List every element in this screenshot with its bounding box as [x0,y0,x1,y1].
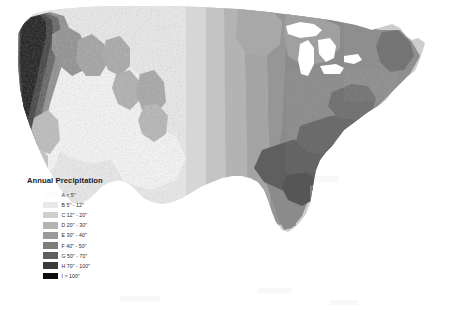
legend-swatch-E [43,232,58,239]
map-legend: Annual Precipitation A < 5" B 5" - 12" C… [27,176,157,281]
legend-item-I: I > 100" [27,271,157,281]
legend-label-B: B 5" - 12" [62,202,84,208]
legend-item-E: E 30" - 40" [27,230,157,240]
legend-item-H: H 70" - 100" [27,261,157,271]
background-artifact [120,296,160,301]
legend-title: Annual Precipitation [27,176,157,185]
legend-swatch-G [43,252,58,259]
class-C-western-plains [206,6,226,214]
legend-item-G: G 50" - 70" [27,251,157,261]
legend-label-F: F 40" - 50" [62,243,87,249]
legend-item-C: C 12" - 20" [27,210,157,220]
legend-item-F: F 40" - 50" [27,240,157,250]
legend-label-D: D 20" - 30" [62,222,88,228]
legend-label-C: C 12" - 20" [62,212,88,218]
legend-swatch-C [43,212,58,219]
class-C-high-plains [186,6,206,210]
legend-label-I: I > 100" [62,273,80,279]
legend-label-A: A < 5" [62,192,76,198]
legend-swatch-A [43,192,58,199]
background-artifact [330,300,358,305]
legend-item-A: A < 5" [27,190,157,200]
legend-swatch-H [43,262,58,269]
legend-swatch-I [43,273,58,280]
legend-swatch-B [43,202,58,209]
legend-swatch-D [43,222,58,229]
background-artifact [258,288,292,293]
legend-label-E: E 30" - 40" [62,232,87,238]
legend-item-B: B 5" - 12" [27,200,157,210]
legend-label-G: G 50" - 70" [62,253,88,259]
precipitation-map-figure: Annual Precipitation A < 5" B 5" - 12" C… [0,0,451,313]
legend-swatch-F [43,242,58,249]
legend-item-D: D 20" - 30" [27,220,157,230]
legend-label-H: H 70" - 100" [62,263,91,269]
western-terrain-highlights [14,8,189,198]
